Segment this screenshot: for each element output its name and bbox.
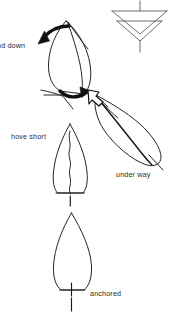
wind-chevron-lower: [117, 21, 162, 41]
nautical-diagram: nd down hove short under way anchored: [0, 0, 189, 322]
label-anchored: anchored: [90, 290, 121, 297]
boat-under-way: [95, 95, 163, 170]
diagram-canvas: [0, 0, 189, 322]
label-under-way: under way: [116, 171, 151, 178]
wind-direction-arrow: [112, 1, 167, 52]
boat-hove-short-rode-wavy: [69, 131, 71, 194]
wind-chevron-upper: [112, 11, 167, 34]
boat-anchored-hull: [53, 213, 91, 290]
swing-arrow-stern: [60, 87, 91, 98]
boat-under-way-sheer: [99, 100, 152, 165]
label-and-down: nd down: [0, 42, 25, 49]
boat-hove-short: [53, 124, 87, 206]
boat-and-down-rigging: [68, 22, 88, 49]
label-hove-short: hove short: [11, 133, 46, 140]
boat-and-down-hull: [48, 21, 90, 94]
boat-anchored: [53, 213, 91, 311]
